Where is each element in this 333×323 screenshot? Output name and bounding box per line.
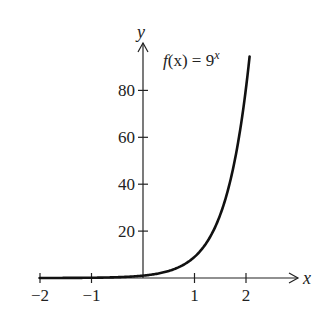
function-label: f(x) = 9x — [163, 48, 220, 70]
y-tick-label: 20 — [118, 222, 135, 241]
x-axis-label: x — [302, 268, 311, 288]
function-label-exponent: x — [213, 48, 220, 62]
y-axis-label: y — [135, 22, 145, 42]
x-tick-label: 1 — [190, 286, 199, 305]
exponential-plot: x y −2−112 20406080 f(x) = 9x — [0, 0, 333, 323]
x-tick-label: −2 — [31, 286, 49, 305]
x-tick-label: 2 — [242, 286, 251, 305]
function-label-body: (x) = 9 — [168, 51, 214, 70]
x-tick-label: −1 — [82, 286, 100, 305]
function-curve — [40, 56, 250, 278]
y-tick-label: 80 — [118, 81, 135, 100]
y-tick-label: 60 — [118, 128, 135, 147]
y-tick-label: 40 — [118, 175, 135, 194]
